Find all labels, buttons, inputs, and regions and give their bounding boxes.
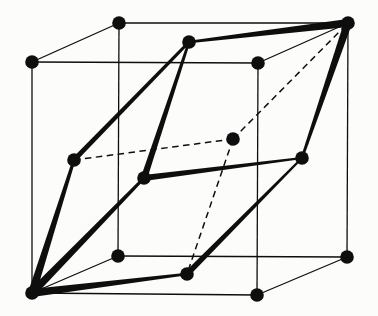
- crystal-structure-figure: [0, 0, 378, 316]
- atom-dot-corner-back-top-left: [112, 16, 126, 30]
- atom-dot-face-left: [67, 153, 81, 167]
- atom-dot-corner-front-bottom-left: [25, 286, 39, 300]
- atom-dot-corner-front-top-right: [251, 56, 265, 70]
- fcc-primitive-cell-drawing: [0, 0, 378, 316]
- atom-dot-corner-back-top-right: [341, 16, 355, 30]
- atom-dot-corner-back-bottom-right: [340, 250, 354, 264]
- atom-dot-corner-front-top-left: [25, 55, 39, 69]
- atom-dot-corner-back-bottom-left: [111, 249, 125, 263]
- atom-dot-face-back: [226, 132, 240, 146]
- atom-dot-face-front: [137, 171, 151, 185]
- atom-dot-face-right: [295, 151, 309, 165]
- atom-dot-corner-front-bottom-right: [250, 288, 264, 302]
- atom-dot-face-top: [182, 35, 196, 49]
- atom-dot-face-bottom: [180, 267, 194, 281]
